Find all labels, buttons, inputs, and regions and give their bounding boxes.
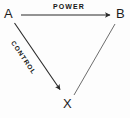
- edge-b-to-x: [74, 24, 115, 95]
- node-label-x: X: [63, 97, 72, 110]
- node-label-a: A: [4, 7, 13, 20]
- triangle-relationship-diagram: A B X POWER CONTROL: [0, 0, 130, 118]
- edge-label-power: POWER: [53, 3, 85, 10]
- node-label-b: B: [116, 7, 125, 20]
